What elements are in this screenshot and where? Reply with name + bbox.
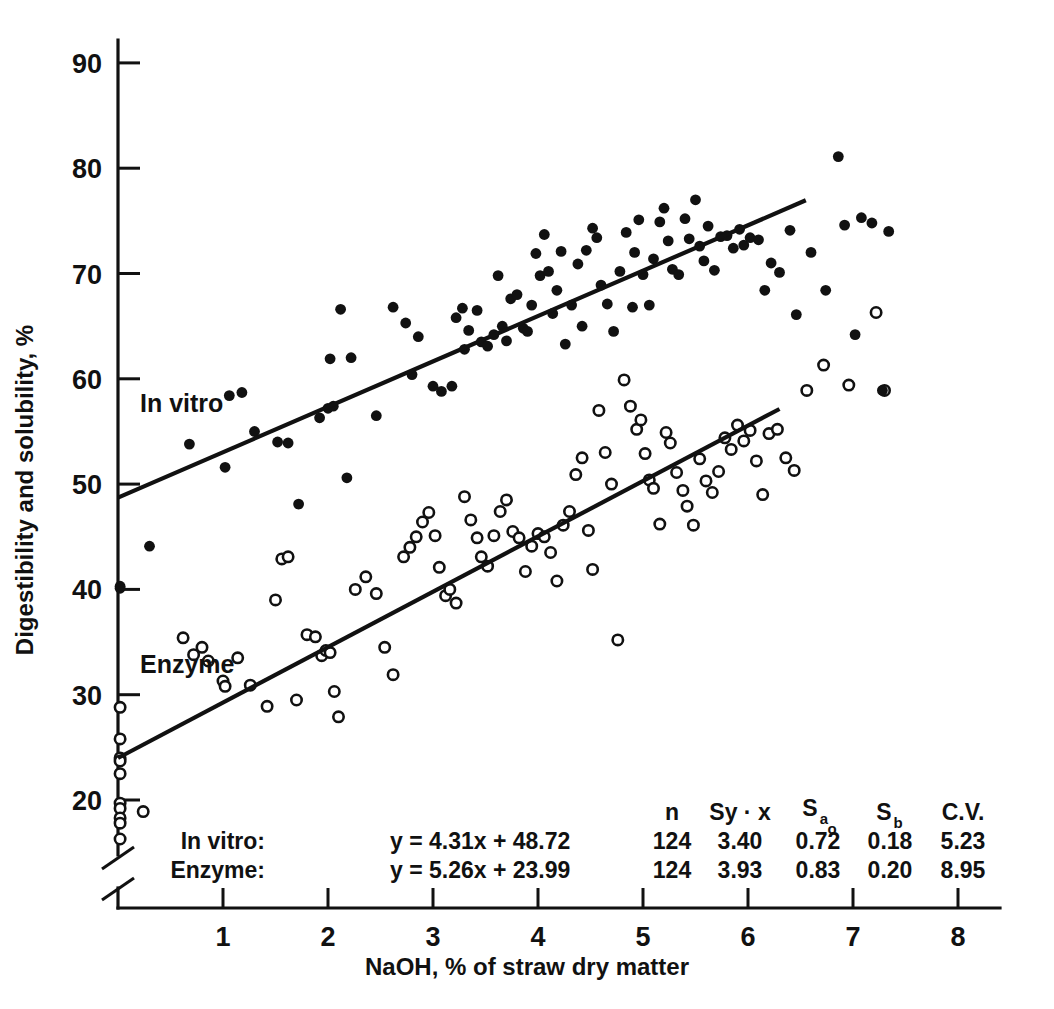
data-point-enzyme xyxy=(495,506,505,516)
data-point-in-vitro xyxy=(774,267,785,278)
data-point-enzyme xyxy=(688,520,698,530)
data-point-in-vitro xyxy=(629,247,640,258)
data-point-in-vitro xyxy=(346,352,357,363)
x-axis-tick-label: 8 xyxy=(950,922,965,952)
data-point-in-vitro xyxy=(833,151,844,162)
data-point-in-vitro xyxy=(451,312,462,323)
data-point-in-vitro xyxy=(602,299,613,310)
data-point-enzyme xyxy=(489,531,499,541)
y-axis-tick-label: 20 xyxy=(72,786,102,816)
data-point-in-vitro xyxy=(820,285,831,296)
data-point-in-vitro xyxy=(335,304,346,315)
data-point-in-vitro xyxy=(144,541,155,552)
statistics-table: nSy · xSaoSbC.V.In vitro:y = 4.31x + 48.… xyxy=(170,795,985,883)
data-point-in-vitro xyxy=(573,259,584,270)
stats-row-equation: y = 4.31x + 48.72 xyxy=(390,828,570,854)
data-point-in-vitro xyxy=(272,437,283,448)
data-point-enzyme xyxy=(270,595,280,605)
x-axis-tick-label: 3 xyxy=(425,922,440,952)
stats-row-sa0: 0.72 xyxy=(796,828,841,854)
data-point-in-vitro xyxy=(753,234,764,245)
y-axis-tick-label: 90 xyxy=(72,49,102,79)
data-point-enzyme xyxy=(577,453,587,463)
data-point-enzyme xyxy=(564,506,574,516)
data-point-in-vitro xyxy=(766,258,777,269)
data-point-in-vitro xyxy=(413,331,424,342)
data-point-enzyme xyxy=(138,806,148,816)
data-point-in-vitro xyxy=(587,223,598,234)
data-point-enzyme xyxy=(682,501,692,511)
x-axis-tick-label: 1 xyxy=(215,922,230,952)
data-point-in-vitro xyxy=(531,248,542,259)
data-point-enzyme xyxy=(613,635,623,645)
data-point-enzyme xyxy=(472,533,482,543)
data-point-in-vitro xyxy=(512,289,523,300)
data-point-in-vitro xyxy=(684,233,695,244)
y-axis-tick-label: 70 xyxy=(72,260,102,290)
y-axis-tick-labels: 2030405060708090 xyxy=(72,49,102,816)
data-point-enzyme xyxy=(361,572,371,582)
data-point-in-vitro xyxy=(522,326,533,337)
data-point-in-vitro xyxy=(867,218,878,229)
data-point-in-vitro xyxy=(690,194,701,205)
data-point-in-vitro xyxy=(627,302,638,313)
scatter-plot-svg: 2030405060708090 12345678 In vitro Enzym… xyxy=(0,0,1054,1009)
data-point-enzyme xyxy=(655,519,665,529)
data-point-in-vitro xyxy=(543,266,554,277)
data-point-enzyme xyxy=(552,576,562,586)
stats-header-sb: S xyxy=(876,799,891,825)
data-point-enzyme xyxy=(818,360,828,370)
y-axis-tick-label: 50 xyxy=(72,470,102,500)
data-point-in-vitro xyxy=(184,439,195,450)
stats-row-label: In vitro: xyxy=(181,828,265,854)
stats-header-sa: S xyxy=(802,795,817,821)
data-point-enzyme xyxy=(451,598,461,608)
data-point-enzyme xyxy=(789,465,799,475)
data-point-enzyme xyxy=(671,467,681,477)
data-point-enzyme xyxy=(871,307,881,317)
data-point-in-vitro xyxy=(472,305,483,316)
stats-header-cv: C.V. xyxy=(942,799,985,825)
data-point-enzyme xyxy=(434,562,444,572)
data-point-in-vitro xyxy=(633,214,644,225)
data-point-in-vitro xyxy=(283,438,294,449)
plot-axes xyxy=(102,40,1000,908)
data-point-enzyme xyxy=(262,701,272,711)
data-point-in-vitro xyxy=(325,353,336,364)
data-point-enzyme xyxy=(594,405,604,415)
data-point-enzyme xyxy=(411,532,421,542)
data-point-in-vitro xyxy=(709,265,720,276)
data-point-in-vitro xyxy=(539,229,550,240)
data-point-in-vitro xyxy=(501,336,512,347)
chart-figure: 2030405060708090 12345678 In vitro Enzym… xyxy=(0,0,1054,1009)
x-axis-tick-labels: 12345678 xyxy=(215,922,965,952)
data-point-enzyme xyxy=(636,415,646,425)
data-point-in-vitro xyxy=(115,583,126,594)
data-point-enzyme xyxy=(283,552,293,562)
data-point-enzyme xyxy=(571,469,581,479)
data-point-enzyme xyxy=(545,547,555,557)
data-point-in-vitro xyxy=(577,321,588,332)
annotation-in-vitro: In vitro xyxy=(140,389,223,417)
y-axis-tick-label: 30 xyxy=(72,681,102,711)
data-point-in-vitro xyxy=(785,225,796,236)
data-point-enzyme xyxy=(115,769,125,779)
data-point-enzyme xyxy=(751,456,761,466)
data-point-in-vitro xyxy=(850,329,861,340)
data-point-enzyme xyxy=(844,380,854,390)
data-point-enzyme xyxy=(115,818,125,828)
data-point-in-vitro xyxy=(615,266,626,277)
x-axis-title: NaOH, % of straw dry matter xyxy=(365,953,689,980)
data-point-enzyme xyxy=(178,633,188,643)
data-point-enzyme xyxy=(661,427,671,437)
stats-row-label: Enzyme: xyxy=(170,857,265,883)
data-point-enzyme xyxy=(388,670,398,680)
data-point-in-vitro xyxy=(237,387,248,398)
data-point-enzyme xyxy=(781,453,791,463)
data-point-enzyme xyxy=(291,695,301,705)
data-point-enzyme xyxy=(665,438,675,448)
data-point-in-vitro xyxy=(728,243,739,254)
data-point-in-vitro xyxy=(699,256,710,267)
stats-header-n: n xyxy=(665,799,679,825)
data-point-enzyme xyxy=(380,642,390,652)
